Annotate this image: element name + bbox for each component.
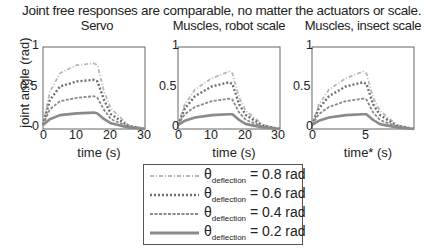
- legend-label: = 0.6 rad: [250, 185, 306, 201]
- series-line: [312, 72, 414, 129]
- xtick: 5: [362, 128, 369, 142]
- ytick: 1: [32, 38, 39, 52]
- x-axis-label-servo: time (s): [64, 145, 134, 160]
- series-line: [43, 113, 145, 129]
- legend: θdeflection = 0.8 rad θdeflection = 0.6 …: [143, 164, 303, 245]
- ytick: 1: [306, 38, 313, 52]
- ytick: 0: [32, 119, 39, 133]
- legend-subscript: deflection: [212, 195, 246, 204]
- xtick: 0: [175, 128, 182, 142]
- xtick: 0: [40, 128, 47, 142]
- ytick: 0.5: [20, 79, 37, 93]
- legend-entry: θdeflection = 0.6 rad: [144, 185, 304, 205]
- legend-subscript: deflection: [212, 176, 246, 185]
- xtick: 10: [204, 128, 218, 142]
- ytick: 0.5: [159, 79, 176, 93]
- ytick: 1: [172, 38, 179, 52]
- xtick: 10: [69, 128, 83, 142]
- legend-entry: θdeflection = 0.2 rad: [144, 223, 304, 243]
- series-line: [312, 114, 414, 129]
- legend-label: = 0.4 rad: [250, 204, 306, 220]
- xtick: 30: [271, 128, 285, 142]
- theta-symbol: θ: [204, 166, 212, 182]
- theta-symbol: θ: [204, 204, 212, 220]
- xtick: 0: [309, 128, 316, 142]
- legend-subscript: deflection: [212, 214, 246, 223]
- xtick: 20: [238, 128, 252, 142]
- series-line: [178, 82, 280, 129]
- ytick: 0.5: [293, 79, 310, 93]
- legend-entry: θdeflection = 0.8 rad: [144, 166, 304, 186]
- x-axis-label-insect: time* (s): [328, 145, 408, 160]
- x-axis-label-robot: time (s): [199, 145, 269, 160]
- series-line: [178, 114, 280, 129]
- legend-label: = 0.8 rad: [250, 166, 306, 182]
- theta-symbol: θ: [204, 223, 212, 239]
- series-line: [312, 82, 414, 129]
- xtick: 20: [103, 128, 117, 142]
- series-line: [43, 80, 145, 129]
- xtick: 30: [137, 128, 151, 142]
- legend-entry: θdeflection = 0.4 rad: [144, 204, 304, 224]
- legend-label: = 0.2 rad: [250, 223, 306, 239]
- theta-symbol: θ: [204, 185, 212, 201]
- legend-subscript: deflection: [212, 233, 246, 242]
- series-line: [178, 72, 280, 129]
